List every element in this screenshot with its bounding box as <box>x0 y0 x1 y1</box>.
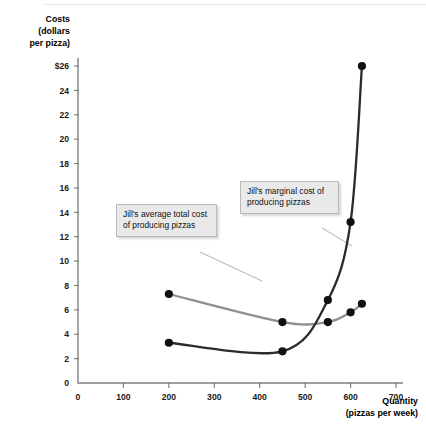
x-tick-label: 200 <box>162 392 177 402</box>
x-tick-label: 300 <box>207 392 222 402</box>
chart-figure: 024681012141618202224$26 010020030040050… <box>0 0 426 432</box>
svg-text:Costs: Costs <box>46 14 71 24</box>
y-axis-title: Costs (dollars per pizza) <box>29 14 70 48</box>
y-tick-label: 20 <box>59 134 69 144</box>
y-axis-tick-labels: 024681012141618202224$26 <box>55 61 70 388</box>
svg-text:(dollars: (dollars <box>38 26 70 36</box>
x-tick-label: 100 <box>116 392 131 402</box>
x-axis-tick-labels: 0100200300400500600700 <box>76 392 404 402</box>
y-tick-label: 6 <box>64 305 69 315</box>
data-point <box>358 62 366 70</box>
x-tick-label: 400 <box>253 392 268 402</box>
y-tick-label: 8 <box>64 281 69 291</box>
data-point <box>278 318 286 326</box>
y-tick-label: 16 <box>59 183 69 193</box>
data-point <box>358 300 366 308</box>
x-tick-label: 500 <box>298 392 313 402</box>
x-tick-label: 0 <box>76 392 81 402</box>
data-point <box>165 339 173 347</box>
svg-text:Quantity: Quantity <box>382 396 418 406</box>
y-tick-label: 18 <box>59 159 69 169</box>
data-point <box>278 347 286 355</box>
data-point <box>165 290 173 298</box>
y-tick-label: 14 <box>59 208 69 218</box>
svg-text:per pizza): per pizza) <box>29 38 70 48</box>
data-point <box>324 318 332 326</box>
series-line-average-total-cost <box>169 294 362 325</box>
data-point <box>346 308 354 316</box>
data-point <box>346 218 354 226</box>
leader-lines <box>200 228 352 281</box>
y-tick-label: 22 <box>59 110 69 120</box>
annotation-average-total-cost: Jill's average total cost of producing p… <box>116 204 217 237</box>
annotation-marginal-cost: Jill's marginal cost of producing pizzas <box>240 181 339 214</box>
y-tick-label: 4 <box>64 329 69 339</box>
y-tick-label: 2 <box>64 354 69 364</box>
data-point <box>324 296 332 304</box>
svg-text:(pizzas per week): (pizzas per week) <box>346 408 418 418</box>
y-tick-label: 24 <box>59 86 69 96</box>
y-tick-label: $26 <box>55 61 70 71</box>
x-tick-label: 600 <box>343 392 358 402</box>
y-tick-label: 0 <box>64 378 69 388</box>
y-tick-label: 12 <box>59 232 69 242</box>
y-tick-label: 10 <box>59 256 69 266</box>
leader-line-atc <box>200 252 262 281</box>
